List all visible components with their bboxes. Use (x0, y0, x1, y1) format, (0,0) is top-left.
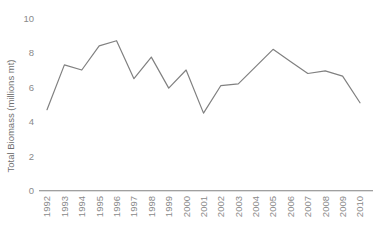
y-tick-label: 8 (29, 47, 34, 58)
x-tick-label: 2009 (337, 196, 348, 217)
x-tick-label: 1992 (41, 196, 52, 217)
y-axis-title: Total Biomass (millions mt) (5, 60, 16, 173)
y-tick-label: 0 (29, 185, 34, 196)
y-tick-label: 2 (29, 151, 34, 162)
line-chart: Total Biomass (millions mt) 0246810 1992… (0, 0, 381, 234)
x-tick-label: 1993 (59, 196, 70, 217)
x-tick-label: 1999 (163, 196, 174, 217)
y-tick-label: 10 (23, 13, 34, 24)
x-tick-label: 2003 (233, 196, 244, 217)
x-tick-label: 2001 (198, 196, 209, 217)
x-tick-label: 2004 (250, 196, 261, 217)
x-tick-label: 2007 (302, 196, 313, 217)
y-tick-label: 4 (29, 116, 34, 127)
chart-container: Total Biomass (millions mt) 0246810 1992… (0, 0, 381, 234)
x-tick-label: 2006 (285, 196, 296, 217)
x-tick-label: 1994 (76, 196, 87, 217)
x-tick-label: 1998 (146, 196, 157, 217)
x-tick-label: 2002 (215, 196, 226, 217)
x-tick-label: 1995 (94, 196, 105, 217)
x-tick-label: 2008 (320, 196, 331, 217)
x-tick-label: 2005 (267, 196, 278, 217)
x-tick-label: 1997 (128, 196, 139, 217)
x-tick-label: 1996 (111, 196, 122, 217)
x-tick-label: 2000 (181, 196, 192, 217)
x-tick-label: 2010 (354, 196, 365, 217)
y-tick-label: 6 (29, 82, 34, 93)
